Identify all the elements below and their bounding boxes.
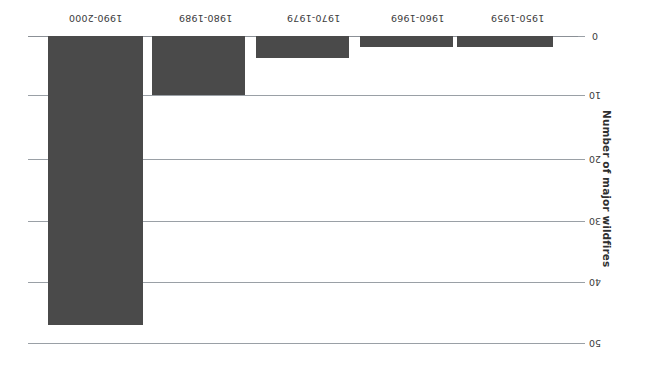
bar-1980-1989[interactable] <box>152 36 245 95</box>
bar-1970-1979[interactable] <box>256 36 349 58</box>
category-label-1950-1959: 1950-1959 <box>470 12 565 24</box>
bar-1950-1959[interactable] <box>457 36 553 47</box>
tick-mark-30 <box>578 221 585 222</box>
bar-1990-2000[interactable] <box>48 36 143 325</box>
tick-mark-20 <box>578 159 585 160</box>
tick-mark-10 <box>578 95 585 96</box>
wildfires-bar-chart: 1990-2000 1980-1989 1970-1979 1960-1969 … <box>0 0 645 383</box>
category-label-1980-1989: 1980-1989 <box>158 12 253 24</box>
tick-mark-0 <box>578 36 585 37</box>
category-axis-labels: 1990-2000 1980-1989 1970-1979 1960-1969 … <box>28 12 578 32</box>
category-label-1960-1969: 1960-1969 <box>370 12 465 24</box>
y-axis-title: Number of major wildfires <box>601 110 613 290</box>
tick-mark-50 <box>578 343 585 344</box>
tick-label-10: 10 <box>586 90 604 101</box>
category-label-1990-2000: 1990-2000 <box>48 12 143 24</box>
tick-label-50: 50 <box>586 338 604 349</box>
bar-1960-1969[interactable] <box>360 36 453 47</box>
tick-label-0: 0 <box>586 31 604 42</box>
bar-series <box>28 36 578 344</box>
tick-mark-40 <box>578 282 585 283</box>
category-label-1970-1979: 1970-1979 <box>266 12 361 24</box>
